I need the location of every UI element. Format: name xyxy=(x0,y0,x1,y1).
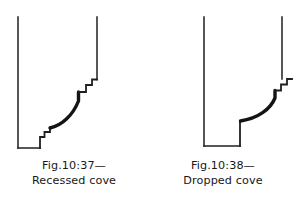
dropped-cove-drawing xyxy=(149,8,297,156)
recessed-cove-svg xyxy=(0,8,148,156)
upper-step-profile xyxy=(79,80,98,93)
caption-figure-number: Fig.10:38— xyxy=(149,158,297,173)
caption-figure-title: Recessed cove xyxy=(0,173,148,188)
cove-curve xyxy=(241,91,276,122)
cove-curve xyxy=(50,92,79,128)
dropped-cove-svg xyxy=(149,8,297,156)
caption-recessed-cove: Fig.10:37— Recessed cove xyxy=(0,158,148,188)
recessed-cove-drawing xyxy=(0,8,148,156)
figure-recessed-cove: Fig.10:37— Recessed cove xyxy=(0,0,148,203)
lower-step-profile xyxy=(40,128,50,149)
figure-plate: Fig.10:37— Recessed cove Fig.10:38 xyxy=(0,0,297,203)
caption-figure-title: Dropped cove xyxy=(149,173,297,188)
caption-figure-number: Fig.10:37— xyxy=(0,158,148,173)
upper-step-profile xyxy=(275,79,292,91)
figure-dropped-cove: Fig.10:38— Dropped cove xyxy=(149,0,297,203)
caption-dropped-cove: Fig.10:38— Dropped cove xyxy=(149,158,297,188)
